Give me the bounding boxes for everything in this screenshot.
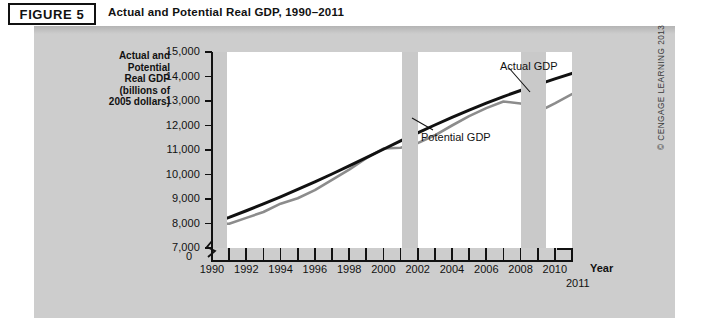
x-axis-tick xyxy=(503,248,505,261)
y-axis-tick xyxy=(205,223,212,225)
x-axis-end-year-label: 2011 xyxy=(566,277,590,289)
x-axis-tick xyxy=(468,248,470,261)
x-axis-tick xyxy=(263,248,265,261)
y-axis-tick xyxy=(205,100,212,102)
y-axis-tick xyxy=(205,149,212,151)
x-axis-end-bracket xyxy=(556,248,574,262)
x-axis-tick xyxy=(331,248,333,261)
figure-title: Actual and Potential Real GDP, 1990–2011 xyxy=(108,6,344,18)
x-axis-title: Year xyxy=(590,262,613,274)
x-axis-tick xyxy=(451,248,453,261)
x-axis-tick xyxy=(434,248,436,261)
annotation-actual-gdp: Actual GDP xyxy=(500,60,557,72)
x-axis-line xyxy=(211,260,573,262)
figure-container: FIGURE 5 Actual and Potential Real GDP, … xyxy=(0,0,707,332)
x-axis-tick xyxy=(383,248,385,261)
figure-number-badge: FIGURE 5 xyxy=(8,3,96,25)
y-axis-tick-label: 13,000 xyxy=(138,94,200,106)
y-axis-tick xyxy=(205,51,212,53)
x-axis-tick xyxy=(520,248,522,261)
x-axis-tick xyxy=(417,248,419,261)
annotation-leader-lines xyxy=(212,52,572,248)
x-axis-tick xyxy=(365,248,367,261)
y-axis-tick xyxy=(205,76,212,78)
x-axis-tick xyxy=(245,248,247,261)
y-axis-tick xyxy=(205,174,212,176)
x-axis-tick xyxy=(485,248,487,261)
x-axis-tick xyxy=(280,248,282,261)
x-axis-tick xyxy=(314,248,316,261)
y-axis-tick-label: 15,000 xyxy=(138,45,200,57)
x-axis-tick xyxy=(537,248,539,261)
y-axis-tick-label: 9,000 xyxy=(138,192,200,204)
y-axis-zero-label: 0 xyxy=(186,250,192,262)
y-axis-tick-label: 10,000 xyxy=(138,168,200,180)
x-axis-tick xyxy=(297,248,299,261)
y-axis-tick-label: 8,000 xyxy=(138,217,200,229)
y-axis-tick-label: 11,000 xyxy=(138,143,200,155)
potential-gdp-leader xyxy=(412,118,433,130)
annotation-potential-gdp: Potential GDP xyxy=(421,131,491,143)
x-axis-tick xyxy=(348,248,350,261)
y-axis-tick xyxy=(205,198,212,200)
x-axis-tick-label: 2010 xyxy=(535,263,575,275)
x-axis-tick xyxy=(400,248,402,261)
figure-header: FIGURE 5 Actual and Potential Real GDP, … xyxy=(0,0,707,26)
panel-top-shade xyxy=(34,26,675,34)
y-axis-tick xyxy=(205,125,212,127)
copyright-notice: © CENGAGE LEARNING 2013 xyxy=(657,25,666,150)
y-axis-tick-label: 12,000 xyxy=(138,119,200,131)
x-axis-tick xyxy=(228,248,230,261)
y-axis-tick-label: 14,000 xyxy=(138,70,200,82)
